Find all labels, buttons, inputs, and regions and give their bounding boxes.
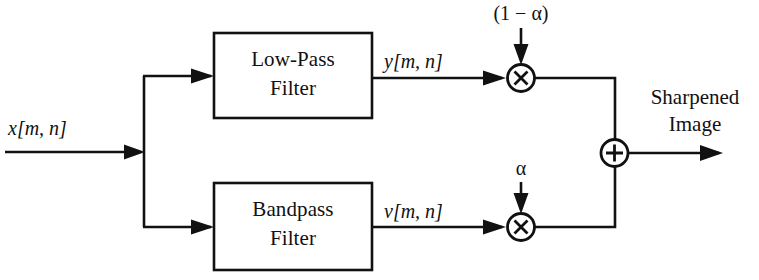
bottom-gain-arrow-head — [514, 193, 529, 214]
bottom-gain-wire-group — [514, 182, 529, 214]
block-diagram-canvas: x[m, n] Low-Pass Filter Bandpass Filter … — [0, 0, 759, 280]
input-arrow-head — [124, 145, 145, 160]
top-sum-feed-wire-group — [534, 78, 615, 141]
input-wire-group — [5, 145, 145, 160]
bandpass-output-signal-label: v[m, n] — [384, 200, 443, 222]
lowpass-output-signal-label: y[m, n] — [384, 50, 443, 72]
bottom-multiplier-node — [508, 214, 535, 241]
diagram-vector-layer — [0, 0, 759, 280]
lowpass-input-arrow-head — [191, 69, 214, 84]
top-gain-wire-group — [514, 28, 529, 65]
top-multiplier-node — [508, 65, 535, 92]
output-caption-line1: Sharpened — [631, 84, 759, 111]
output-caption-line2: Image — [631, 111, 759, 138]
bandpass-input-wire-group — [143, 220, 214, 235]
top-gain-label: (1 − α) — [471, 2, 571, 24]
summing-node — [601, 140, 628, 167]
lowpass-filter-label-line2: Filter — [214, 77, 372, 101]
bandpass-output-arrow-head — [483, 220, 506, 235]
top-sum-feed-wire — [534, 78, 615, 141]
lowpass-input-wire-group — [143, 69, 214, 84]
bandpass-filter-label-line2: Filter — [214, 227, 372, 251]
bandpass-input-arrow-head — [191, 220, 214, 235]
bottom-gain-label: α — [491, 157, 551, 179]
output-arrow-head — [700, 145, 723, 161]
lowpass-output-wire-group — [372, 71, 506, 86]
top-gain-arrow-head — [514, 44, 529, 65]
output-wire-group — [628, 145, 723, 161]
bandpass-filter-label-line1: Bandpass — [214, 198, 372, 222]
input-signal-label: x[m, n] — [8, 117, 67, 139]
lowpass-filter-label-line1: Low-Pass — [214, 48, 372, 72]
lowpass-output-arrow-head — [483, 71, 506, 86]
